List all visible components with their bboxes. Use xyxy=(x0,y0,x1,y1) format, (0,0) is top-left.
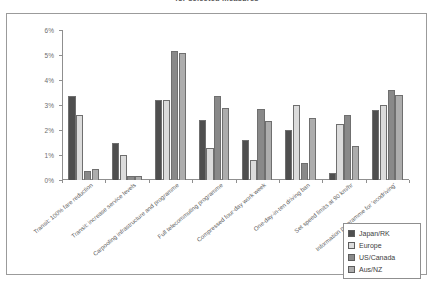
bar-group xyxy=(322,30,365,180)
x-tick xyxy=(279,180,280,183)
bar xyxy=(352,146,359,180)
legend-item: US/Canada xyxy=(348,251,416,263)
bar xyxy=(84,171,91,180)
legend-swatch-us-canada xyxy=(348,254,355,261)
bar xyxy=(199,120,206,180)
bar xyxy=(206,148,213,181)
bar xyxy=(250,160,257,180)
bar xyxy=(76,115,83,180)
bar xyxy=(309,118,316,181)
bar xyxy=(155,100,162,180)
bar-group xyxy=(366,30,409,180)
bar xyxy=(301,163,308,181)
bar xyxy=(285,130,292,180)
bar xyxy=(329,173,336,181)
bar xyxy=(179,53,186,181)
legend-label: Europe xyxy=(359,242,382,249)
bar xyxy=(68,96,75,180)
legend-label: Japan/RK xyxy=(359,230,390,237)
x-tick xyxy=(409,180,410,183)
y-tick-label: 2% xyxy=(45,127,54,134)
bar xyxy=(120,155,127,180)
bar xyxy=(257,109,264,180)
x-axis-label: Compressed four-day work week xyxy=(196,182,267,243)
legend-item: Aus/NZ xyxy=(348,263,416,275)
x-tick xyxy=(366,180,367,183)
bar xyxy=(112,143,119,181)
legend-swatch-europe xyxy=(348,242,355,249)
bar xyxy=(127,176,134,180)
bar xyxy=(395,95,402,180)
bar xyxy=(372,110,379,180)
bar xyxy=(265,121,272,180)
bar-group xyxy=(149,30,192,180)
legend-swatch-japan-rk xyxy=(348,230,355,237)
bar xyxy=(135,176,142,180)
legend-label: Aus/NZ xyxy=(359,266,382,273)
bar-group xyxy=(236,30,279,180)
bar xyxy=(388,90,395,180)
y-tick-label: 3% xyxy=(45,102,54,109)
x-tick xyxy=(192,180,193,183)
bar xyxy=(293,105,300,180)
legend-swatch-aus-nz xyxy=(348,266,355,273)
y-tick-label: 6% xyxy=(45,27,54,34)
bar-group xyxy=(279,30,322,180)
legend-item: Europe xyxy=(348,239,416,251)
y-tick-label: 5% xyxy=(45,52,54,59)
bar xyxy=(380,105,387,180)
bar xyxy=(242,140,249,180)
bar xyxy=(344,115,351,180)
chart-title: for selected measures xyxy=(0,0,434,3)
bar-group xyxy=(192,30,235,180)
bar xyxy=(336,124,343,180)
chart-frame: 0%1%2%3%4%5%6% Transit: 100% fare reduct… xyxy=(6,13,427,275)
y-tick-label: 4% xyxy=(45,77,54,84)
bar xyxy=(222,108,229,181)
legend-item: Japan/RK xyxy=(348,227,416,239)
plot-area: 0%1%2%3%4%5%6% xyxy=(62,30,409,180)
x-tick xyxy=(105,180,106,183)
bar xyxy=(92,169,99,180)
y-tick-label: 0% xyxy=(45,177,54,184)
x-axis-label: Carpooling infrastructure and programme xyxy=(92,182,180,257)
x-tick xyxy=(236,180,237,183)
x-tick xyxy=(322,180,323,183)
bar xyxy=(163,100,170,180)
bar-group xyxy=(105,30,148,180)
y-tick-label: 1% xyxy=(45,152,54,159)
chart-legend: Japan/RK Europe US/Canada Aus/NZ xyxy=(343,223,421,279)
legend-label: US/Canada xyxy=(359,254,395,261)
bar-group xyxy=(62,30,105,180)
x-tick xyxy=(62,180,63,183)
chart-screenshot: for selected measures 0%1%2%3%4%5%6% Tra… xyxy=(0,0,434,287)
x-tick xyxy=(149,180,150,183)
bar xyxy=(171,51,178,180)
bar xyxy=(214,96,221,180)
